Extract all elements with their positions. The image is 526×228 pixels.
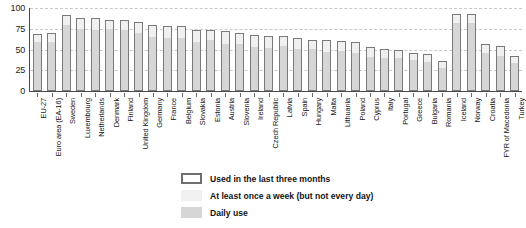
bar-total [177, 26, 186, 91]
x-tick-group: Romania [435, 93, 449, 159]
x-tick-mark [153, 93, 154, 97]
x-tick-mark [52, 93, 53, 97]
bar-segment-daily [178, 38, 185, 90]
x-axis-line [29, 91, 522, 92]
bar-segment-weekly [63, 15, 70, 25]
bar-group [435, 8, 449, 91]
x-tick-group: Iceland [450, 93, 464, 159]
bar-segment-weekly [193, 30, 200, 42]
bars-container [30, 8, 522, 91]
bar-group [204, 8, 218, 91]
bar-segment-weekly [468, 14, 475, 23]
bar-segment-daily [106, 29, 113, 90]
plot-area: 1007550250 EU-27Euro area (EA-16)SwedenL… [0, 0, 525, 160]
bar-segment-daily [381, 58, 388, 90]
bar-total [120, 20, 129, 91]
bar-group [218, 8, 232, 91]
bar-segment-daily [482, 53, 489, 90]
x-tick-mark [211, 93, 212, 97]
x-tick-group: Netherlands [88, 93, 102, 159]
x-tick-group: Euro area (EA-16) [44, 93, 58, 159]
x-tick-mark [254, 93, 255, 97]
legend-label: Daily use [210, 208, 248, 218]
bar-total [438, 61, 447, 91]
x-tick-group: Belgium [175, 93, 189, 159]
bar-segment-weekly [265, 36, 272, 47]
bar-segment-daily [338, 51, 345, 90]
bar-total [510, 56, 519, 91]
x-tick-group: Austria [218, 93, 232, 159]
bar-segment-weekly [106, 20, 113, 30]
bar-segment-weekly [178, 26, 185, 37]
y-tick-label: 0 [20, 87, 25, 96]
bar-total [452, 14, 461, 91]
bar-segment-weekly [294, 38, 301, 49]
x-tick-group: Slovenia [233, 93, 247, 159]
bar-segment-daily [34, 42, 41, 90]
x-tick-group: EU-27 [30, 93, 44, 159]
bar-segment-weekly [135, 22, 142, 33]
bar-total [163, 26, 172, 91]
x-tick-mark [356, 93, 357, 97]
bar-total [206, 30, 215, 91]
bar-segment-weekly [164, 26, 171, 37]
bar-group [88, 8, 102, 91]
legend-label: Used in the last three months [210, 174, 330, 184]
bar-segment-daily [511, 63, 518, 90]
x-tick-mark [196, 93, 197, 97]
x-tick-group: Greece [406, 93, 420, 159]
x-tick-mark [283, 93, 284, 97]
x-tick-mark [95, 93, 96, 97]
x-tick-mark [81, 93, 82, 97]
bar-segment-weekly [367, 47, 374, 57]
x-tick-group: United Kingdom [131, 93, 145, 159]
bar-segment-weekly [381, 49, 388, 58]
bar-group [334, 8, 348, 91]
bar-group [363, 8, 377, 91]
bar-segment-daily [48, 42, 55, 90]
bar-group [59, 8, 73, 91]
bar-group [276, 8, 290, 91]
bar-segment-weekly [48, 33, 55, 42]
bar-segment-daily [294, 49, 301, 91]
bar-group [421, 8, 435, 91]
x-tick-group: Turkey [507, 93, 521, 159]
gray-swatch-icon [181, 207, 202, 218]
x-tick-mark [269, 93, 270, 97]
x-tick-group: Ireland [247, 93, 261, 159]
bar-segment-daily [135, 33, 142, 90]
bar-total [76, 18, 85, 91]
bar-total [250, 35, 259, 91]
x-tick-group: Norway [464, 93, 478, 159]
x-tick-group: Hungary [305, 93, 319, 159]
bar-total [496, 46, 505, 91]
bar-group [479, 8, 493, 91]
legend-label: At least once a week (but not every day) [210, 191, 373, 201]
bar-total [351, 42, 360, 91]
bar-total [337, 41, 346, 91]
legend-item[interactable]: At least once a week (but not every day) [181, 187, 481, 204]
x-tick-mark [442, 93, 443, 97]
bar-segment-weekly [511, 56, 518, 63]
y-tick-label: 75 [15, 24, 25, 33]
x-tick-mark [298, 93, 299, 97]
bar-segment-weekly [352, 42, 359, 53]
bar-segment-weekly [121, 20, 128, 31]
legend-item[interactable]: Used in the last three months [181, 170, 481, 187]
x-tick-group: Spain [290, 93, 304, 159]
legend-item[interactable]: Daily use [181, 204, 481, 221]
bar-segment-daily [309, 49, 316, 90]
bar-segment-weekly [497, 46, 504, 56]
y-tick-label: 25 [15, 66, 25, 75]
x-tick-group: Finland [117, 93, 131, 159]
bar-segment-daily [395, 58, 402, 90]
bar-segment-daily [121, 30, 128, 90]
chart-legend: Used in the last three monthsAt least on… [181, 170, 481, 221]
bar-group [117, 8, 131, 91]
bar-segment-weekly [236, 33, 243, 44]
x-tick-mark [413, 93, 414, 97]
y-axis: 1007550250 [0, 8, 28, 91]
bar-segment-weekly [280, 36, 287, 46]
bar-segment-daily [193, 42, 200, 90]
